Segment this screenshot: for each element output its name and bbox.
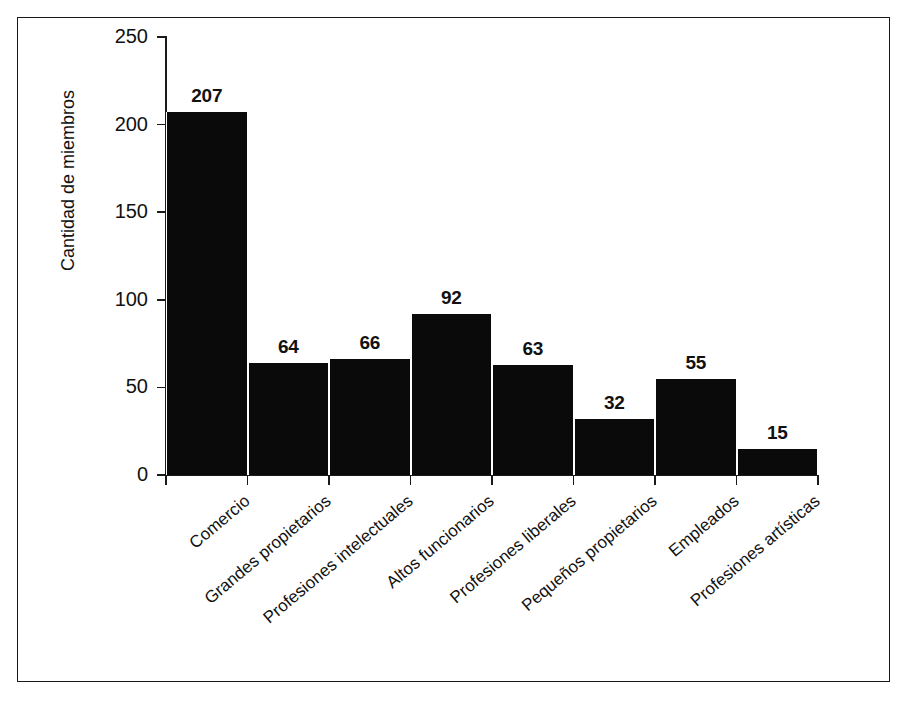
y-axis-tick-label: 0 [0, 464, 148, 484]
bar[interactable]: 66 [329, 359, 411, 475]
bar-slot: 32 [574, 37, 656, 475]
bar[interactable]: 55 [655, 379, 737, 475]
bar-slot: 92 [411, 37, 493, 475]
bar[interactable]: 207 [166, 112, 248, 475]
y-axis-tick-label: 100 [0, 289, 148, 309]
bar[interactable]: 92 [411, 314, 493, 475]
bar[interactable]: 32 [574, 419, 656, 475]
x-axis-tick-mark [817, 475, 819, 485]
plot-area: 20764669263325515 [166, 37, 818, 475]
bar[interactable]: 64 [248, 363, 330, 475]
bar-slot: 64 [248, 37, 330, 475]
bar-value-label: 207 [167, 86, 247, 105]
x-axis-tick-mark [736, 475, 738, 485]
x-axis-tick-mark [165, 475, 167, 485]
bar-slot: 55 [655, 37, 737, 475]
x-axis-tick-mark [654, 475, 656, 485]
x-axis-tick-mark [410, 475, 412, 485]
y-axis-title: Cantidad de miembros [58, 51, 79, 311]
figure-canvas: Cantidad de miembros 050100150200250 207… [0, 0, 906, 712]
x-axis-tick-mark [573, 475, 575, 485]
x-axis-tick-mark [491, 475, 493, 485]
bar-series: 20764669263325515 [166, 37, 818, 475]
x-axis-tick-mark [328, 475, 330, 485]
y-axis-tick-mark [157, 299, 166, 301]
y-axis-tick-mark [157, 387, 166, 389]
bar-value-label: 64 [249, 337, 329, 356]
bar-value-label: 92 [412, 288, 492, 307]
y-axis-tick-mark [157, 36, 166, 38]
y-axis-tick-label: 50 [0, 376, 148, 396]
bar[interactable]: 15 [737, 449, 819, 475]
bar-slot: 66 [329, 37, 411, 475]
bar-value-label: 55 [656, 353, 736, 372]
y-axis-tick-mark [157, 211, 166, 213]
bar-value-label: 63 [493, 339, 573, 358]
y-axis-tick-label: 150 [0, 201, 148, 221]
y-axis-tick-label: 250 [0, 26, 148, 46]
x-axis-tick-mark [247, 475, 249, 485]
bar-value-label: 66 [330, 333, 410, 352]
bar-slot: 207 [166, 37, 248, 475]
bar-value-label: 32 [575, 393, 655, 412]
y-axis-tick-label: 200 [0, 114, 148, 134]
bar-value-label: 15 [738, 423, 818, 442]
bar-slot: 63 [492, 37, 574, 475]
bar-slot: 15 [737, 37, 819, 475]
bar[interactable]: 63 [492, 365, 574, 475]
y-axis-tick-mark [157, 124, 166, 126]
